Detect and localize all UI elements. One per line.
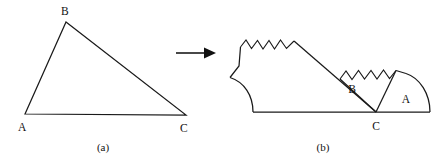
left-upper-edge: [230, 47, 241, 78]
arrow-head-icon: [204, 48, 216, 59]
panel-b-group: A B C (b): [230, 40, 430, 154]
panel-a-group: A C B (a): [18, 5, 188, 154]
triangle-shape: [25, 22, 186, 115]
triangle-vertex-label-c: C: [180, 122, 188, 134]
figure-svg: A C B (a): [0, 0, 446, 163]
region-label-a: A: [402, 93, 411, 105]
region-b-left-edge: [340, 79, 376, 112]
triangle-vertex-label-b: B: [61, 5, 69, 17]
triangle-vertex-label-a: A: [18, 121, 27, 133]
panel-b-caption: (b): [317, 141, 330, 154]
right-zigzag-edge: [340, 70, 396, 80]
vertex-label-c-panel-b: C: [372, 120, 380, 132]
figure-container: A C B (a): [0, 0, 446, 163]
region-label-b: B: [348, 83, 356, 95]
transformation-arrow-group: [176, 48, 216, 59]
left-arc: [230, 78, 253, 113]
region-a-top-edge: [396, 71, 406, 74]
panel-a-caption: (a): [97, 141, 110, 154]
left-zigzag-edge: [241, 40, 295, 49]
